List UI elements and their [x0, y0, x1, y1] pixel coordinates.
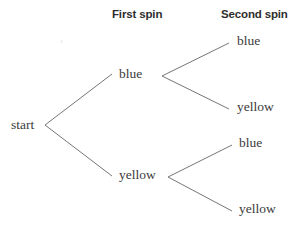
node-label-start: start: [11, 117, 34, 132]
tree-diagram-canvas: First spin Second spin start blue yellow…: [0, 0, 300, 227]
branch-yellow-to-yellow: [168, 177, 232, 211]
node-label-second-spin-yellow-after-blue: yellow: [237, 99, 274, 114]
column-header-second-spin: Second spin: [221, 8, 288, 21]
branch-blue-to-blue: [162, 43, 229, 76]
node-label-first-spin-blue: blue: [119, 66, 142, 81]
column-header-first-spin: First spin: [112, 8, 162, 21]
branch-start-to-blue: [45, 74, 112, 125]
node-label-second-spin-blue-after-yellow: blue: [239, 135, 262, 150]
branch-blue-to-yellow: [162, 76, 229, 109]
scan-artifact-speck: [60, 40, 63, 43]
branch-yellow-to-blue: [168, 145, 232, 177]
node-label-second-spin-yellow-after-yellow: yellow: [239, 201, 276, 216]
node-label-second-spin-blue-after-blue: blue: [237, 33, 260, 48]
branch-start-to-yellow: [45, 125, 112, 176]
node-label-first-spin-yellow: yellow: [119, 167, 156, 182]
